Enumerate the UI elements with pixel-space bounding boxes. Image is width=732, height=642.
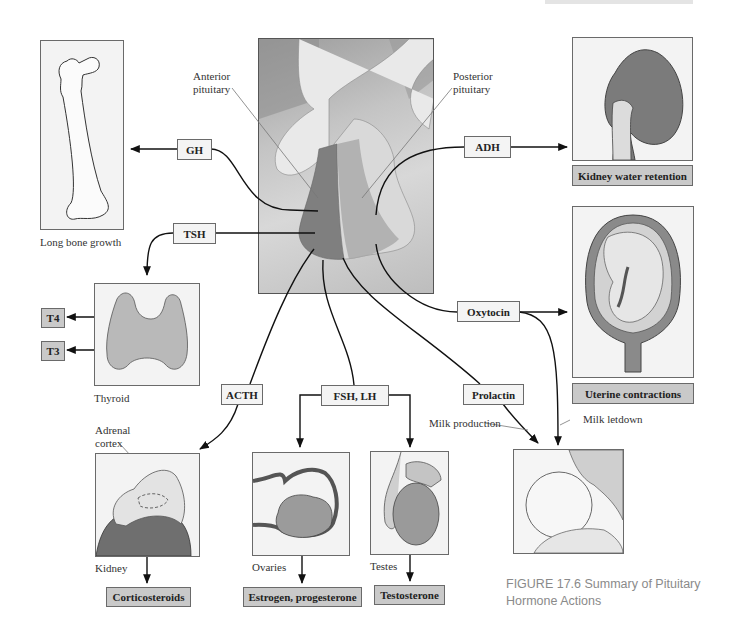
uterus-panel bbox=[572, 206, 694, 378]
uterus-fetus-icon bbox=[573, 207, 693, 377]
posterior-label-line1: Posterior bbox=[453, 70, 493, 83]
adrenal-label-line1: Adrenal bbox=[95, 424, 130, 437]
posterior-pituitary-label: Posterior pituitary bbox=[453, 70, 493, 96]
pituitary-drawing bbox=[259, 39, 434, 294]
tsh-box: TSH bbox=[173, 223, 216, 244]
uterine-contractions-box: Uterine contractions bbox=[572, 383, 694, 404]
prolactin-box: Prolactin bbox=[463, 384, 524, 405]
anterior-label-line1: Anterior bbox=[193, 70, 230, 83]
fsh-lh-box: FSH, LH bbox=[321, 385, 389, 406]
ovary-icon bbox=[253, 453, 349, 555]
testes-panel bbox=[370, 451, 449, 555]
testis-icon bbox=[371, 452, 448, 554]
pituitary-illustration bbox=[258, 38, 434, 294]
femur-bone-icon bbox=[41, 41, 123, 229]
adrenal-gland-icon bbox=[96, 454, 199, 556]
gh-box: GH bbox=[177, 139, 212, 160]
acth-box: ACTH bbox=[221, 384, 263, 405]
milk-production-label: Milk production bbox=[429, 417, 501, 430]
adrenal-label-line2: cortex bbox=[95, 437, 130, 450]
t4-box: T4 bbox=[41, 308, 65, 328]
long-bone-panel bbox=[40, 40, 124, 230]
t3-box: T3 bbox=[41, 341, 65, 361]
caption-line1: FIGURE 17.6 Summary of Pituitary bbox=[506, 576, 701, 593]
figure-caption: FIGURE 17.6 Summary of Pituitary Hormone… bbox=[506, 576, 701, 610]
kidney-organ-icon bbox=[573, 38, 692, 160]
testes-label: Testes bbox=[370, 560, 397, 573]
top-decorative-bar bbox=[545, 0, 693, 4]
adh-box: ADH bbox=[464, 136, 511, 158]
nursing-infant-icon bbox=[514, 450, 623, 553]
posterior-label-line2: pituitary bbox=[453, 83, 493, 96]
thyroid-label: Thyroid bbox=[94, 392, 129, 405]
ovaries-panel bbox=[252, 452, 350, 556]
corticosteroids-box: Corticosteroids bbox=[106, 587, 191, 607]
oxytocin-box: Oxytocin bbox=[457, 301, 520, 322]
anterior-label-line2: pituitary bbox=[193, 83, 230, 96]
anterior-pituitary-label: Anterior pituitary bbox=[193, 70, 230, 96]
thyroid-panel bbox=[94, 283, 200, 386]
adrenal-cortex-label: Adrenal cortex bbox=[95, 424, 130, 450]
breastfeeding-panel bbox=[513, 449, 624, 554]
estrogen-progesterone-box: Estrogen, progesterone bbox=[243, 587, 362, 607]
kidney-label: Kidney bbox=[95, 562, 127, 575]
kidney-water-retention-box: Kidney water retention bbox=[572, 165, 693, 186]
thyroid-gland-icon bbox=[95, 284, 199, 385]
adrenal-panel bbox=[95, 453, 200, 557]
kidney-panel bbox=[572, 37, 693, 161]
milk-letdown-label: Milk letdown bbox=[583, 413, 643, 426]
long-bone-growth-label: Long bone growth bbox=[40, 236, 121, 249]
ovaries-label: Ovaries bbox=[252, 561, 286, 574]
testosterone-box: Testosterone bbox=[374, 585, 445, 605]
caption-line2: Hormone Actions bbox=[506, 593, 701, 610]
